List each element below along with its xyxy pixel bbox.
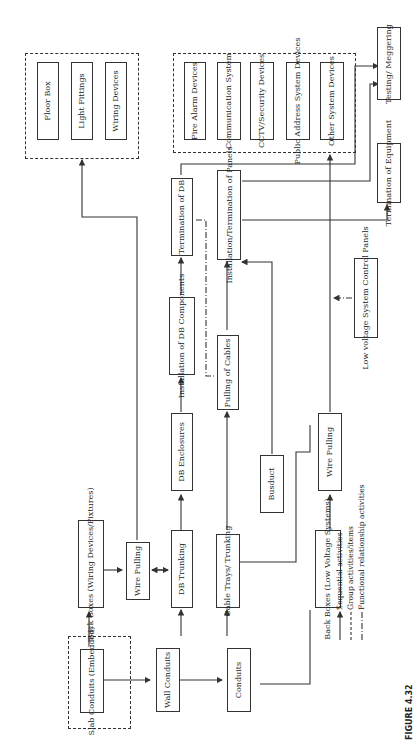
node-slab-conduits: Slab Conduits (Embedded): [80, 649, 104, 713]
node-wiring-devices: Wiring Devices: [105, 62, 127, 140]
node-busduct: Busduct: [260, 455, 284, 513]
node-installation-db-components: Installation of DB Components: [169, 297, 195, 375]
node-lv-control-panels: Low voltage System Control Panels: [354, 258, 378, 338]
legend-group: Group activities/items: [346, 526, 355, 610]
node-testing: Testing/ Meggering: [377, 27, 401, 100]
node-communication: Communication System: [217, 62, 241, 140]
node-back-boxes-wiring: Back Boxes (Wiring Devices/Fixtures): [78, 520, 104, 608]
node-termination-equipment: Termination of Equipment: [377, 143, 401, 203]
node-floor-box: Floor Box: [37, 62, 59, 140]
node-pulling-of-cables: Pulling of Cables: [217, 335, 239, 410]
node-wall-conduits: Wall Conduits: [156, 648, 180, 712]
node-other-system: Other System Devices: [320, 62, 344, 140]
figure-caption: FIGURE 4.32: [405, 684, 414, 740]
node-wire-pulling-2: Wire Pulling: [318, 413, 342, 491]
node-cable-trays: Cable Trays/ Trunking: [216, 534, 240, 608]
node-fire-alarm: Fire Alarm Devices: [184, 62, 206, 140]
node-cctv: CCTV/Security Devices: [250, 62, 274, 140]
node-db-trunking: DB Trunking: [171, 530, 193, 608]
node-wire-pulling-1: Wire Pulling: [126, 542, 150, 600]
node-db-enclosures: DB Enclosures: [171, 413, 193, 491]
legend-sequential: Sequential activities: [335, 532, 344, 610]
node-light-fittings: Light Fittings: [71, 62, 93, 140]
legend-functional: Functional relationship activities: [357, 485, 366, 610]
node-termination-db: Termination of DB: [171, 178, 193, 256]
node-installation-panels: Installation/Termination of Panels: [217, 170, 241, 260]
node-conduits: Conduits: [227, 648, 251, 712]
node-public-address: Public Address System Devices: [286, 62, 310, 140]
